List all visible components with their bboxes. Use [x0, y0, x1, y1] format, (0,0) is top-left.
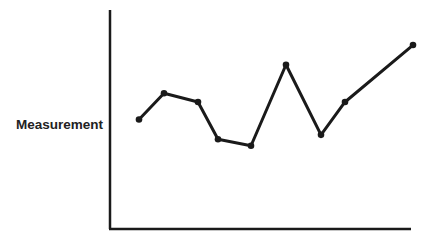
data-point [318, 132, 325, 139]
data-point [283, 61, 290, 68]
data-point [410, 42, 417, 49]
data-series [136, 42, 417, 149]
line-chart [0, 0, 433, 247]
data-point [195, 99, 202, 106]
data-point [136, 116, 143, 123]
data-point [248, 142, 255, 149]
data-point [215, 136, 222, 143]
series-line [139, 45, 413, 146]
data-point [342, 99, 349, 106]
data-point [161, 90, 168, 97]
